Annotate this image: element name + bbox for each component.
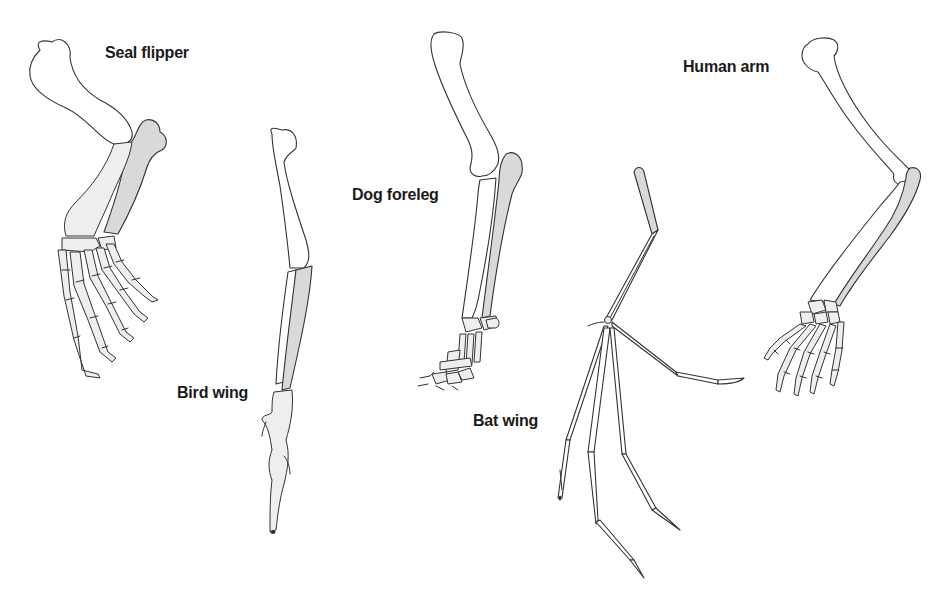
label-bird-wing: Bird wing — [177, 384, 248, 402]
bird-humerus — [271, 128, 309, 268]
dog-foreleg-illustration — [418, 32, 522, 390]
seal-flipper-illustration — [30, 40, 167, 378]
bat-wing-illustration — [558, 168, 744, 579]
human-humerus — [802, 38, 914, 184]
bird-wing-illustration — [262, 128, 312, 534]
label-seal-flipper: Seal flipper — [105, 44, 189, 62]
label-bat-wing: Bat wing — [473, 412, 538, 430]
human-radius — [810, 180, 912, 304]
label-dog-foreleg: Dog foreleg — [352, 186, 439, 204]
label-human-arm: Human arm — [683, 58, 769, 76]
limb-illustrations — [0, 0, 949, 602]
dog-humerus — [431, 32, 499, 177]
bat-humerus — [634, 168, 658, 235]
homologous-limbs-diagram: Seal flipper Bird wing Dog foreleg Bat w… — [0, 0, 949, 602]
human-arm-illustration — [764, 38, 921, 396]
